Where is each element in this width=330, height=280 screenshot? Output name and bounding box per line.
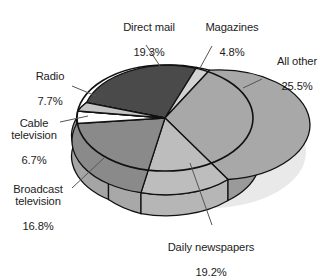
label-direct-mail: Direct mail 19.3%	[94, 8, 204, 71]
label-broadcast-television-name: Broadcast television	[4, 183, 72, 208]
label-broadcast-television: Broadcast television 16.8%	[4, 170, 72, 246]
label-broadcast-television-pct: 16.8%	[4, 220, 72, 233]
label-cable-television-pct: 6.7%	[6, 154, 62, 167]
label-daily-newspapers: Daily newspapers 19.2%	[150, 228, 272, 280]
label-radio-name: Radio	[26, 70, 74, 83]
label-cable-television-name: Cable television	[6, 117, 62, 142]
label-all-other: All other 25.5%	[266, 42, 328, 105]
label-daily-newspapers-pct: 19.2%	[150, 266, 272, 279]
label-all-other-name: All other	[266, 55, 328, 68]
label-cable-television: Cable television 6.7%	[6, 104, 62, 180]
label-direct-mail-pct: 19.3%	[94, 46, 204, 59]
label-all-other-pct: 25.5%	[266, 80, 328, 93]
label-magazines-pct: 4.8%	[197, 46, 267, 59]
label-daily-newspapers-name: Daily newspapers	[150, 241, 272, 254]
label-magazines: Magazines 4.8%	[197, 8, 267, 71]
label-magazines-name: Magazines	[197, 21, 267, 34]
label-direct-mail-name: Direct mail	[94, 21, 204, 34]
